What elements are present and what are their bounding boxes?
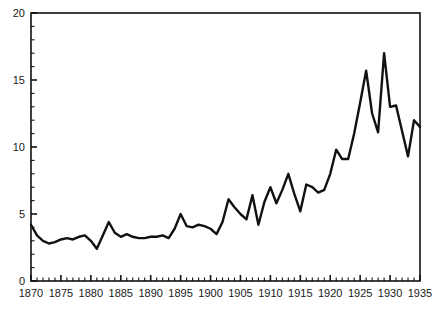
value-axis-tick-label: 20 (13, 7, 25, 19)
value-axis-tick-label: 10 (13, 141, 25, 153)
value-axis-tick-label: 0 (19, 275, 25, 287)
year-axis-tick-label: 1910 (258, 287, 282, 299)
value-axis-tick-label: 15 (13, 74, 25, 86)
year-axis-tick-label: 1915 (288, 287, 312, 299)
year-axis-tick-label: 1870 (19, 287, 43, 299)
chart-canvas: 05101520 1870187518801885189018951900190… (0, 0, 434, 309)
year-axis-tick-label: 1890 (138, 287, 162, 299)
year-axis-tick-label: 1895 (168, 287, 192, 299)
line-chart: 05101520 1870187518801885189018951900190… (0, 0, 434, 309)
value-axis-tick-label: 5 (19, 208, 25, 220)
year-axis-tick-label: 1920 (318, 287, 342, 299)
year-axis-tick-label: 1880 (79, 287, 103, 299)
year-axis-tick-label: 1900 (198, 287, 222, 299)
year-axis-tick-label: 1885 (109, 287, 133, 299)
year-axis-tick-label: 1875 (49, 287, 73, 299)
year-axis-tick-label: 1925 (348, 287, 372, 299)
year-axis-tick-label: 1905 (228, 287, 252, 299)
year-axis-tick-labels: 1870187518801885189018951900190519101915… (19, 287, 432, 299)
year-axis-tick-label: 1930 (378, 287, 402, 299)
year-axis-tick-label: 1935 (408, 287, 432, 299)
value-axis-tick-labels: 05101520 (13, 7, 25, 287)
